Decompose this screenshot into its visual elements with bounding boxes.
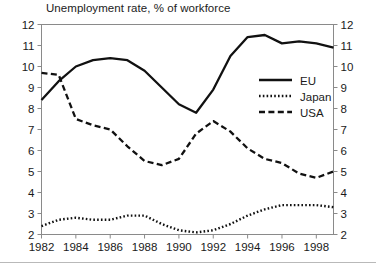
y-tick-label-left: 5 — [28, 166, 34, 178]
series-line-eu — [42, 35, 334, 113]
y-tick-label-left: 6 — [28, 145, 34, 157]
y-tick-label-right: 10 — [341, 61, 354, 73]
legend-label-eu: EU — [300, 75, 316, 87]
y-tick-label-right: 6 — [341, 145, 347, 157]
series-line-usa — [42, 73, 334, 178]
chart-container: Unemployment rate, % of workforce 234567… — [0, 0, 376, 270]
x-tick-label: 1994 — [235, 241, 261, 253]
x-tick-label: 1986 — [97, 241, 123, 253]
y-tick-label-left: 12 — [22, 19, 35, 31]
y-tick-label-right: 11 — [341, 40, 353, 52]
y-tick-label-right: 12 — [341, 19, 354, 31]
y-tick-label-right: 8 — [341, 103, 347, 115]
legend-label-japan: Japan — [300, 91, 331, 103]
y-tick-label-right: 5 — [341, 166, 347, 178]
x-tick-label: 1992 — [200, 241, 226, 253]
y-tick-label-right: 7 — [341, 124, 347, 136]
y-tick-label-left: 2 — [28, 229, 34, 241]
legend-label-usa: USA — [300, 107, 324, 119]
y-tick-label-left: 4 — [28, 187, 35, 199]
y-tick-label-right: 4 — [341, 187, 348, 199]
y-tick-label-left: 10 — [22, 61, 35, 73]
x-tick-label: 1988 — [132, 241, 158, 253]
x-tick-label: 1998 — [304, 241, 330, 253]
x-axis-ticks: 198219841986198819901992199419961998 — [29, 235, 329, 253]
footer-divider — [0, 262, 376, 263]
y-tick-label-right: 2 — [341, 229, 347, 241]
x-tick-label: 1990 — [166, 241, 192, 253]
chart-plot-area: 23456789101112 23456789101112 1982198419… — [0, 0, 376, 270]
y-tick-label-left: 11 — [23, 40, 35, 52]
x-tick-label: 1984 — [63, 241, 89, 253]
y-tick-label-left: 7 — [28, 124, 34, 136]
series-line-japan — [42, 205, 334, 232]
x-tick-label: 1996 — [269, 241, 295, 253]
y-tick-label-right: 9 — [341, 82, 347, 94]
y-axis-right-ticks: 23456789101112 — [334, 19, 354, 241]
series-lines — [42, 35, 334, 232]
chart-legend: EUJapanUSA — [259, 75, 331, 119]
axis-frame — [42, 25, 334, 235]
y-axis-left-ticks: 23456789101112 — [22, 19, 42, 241]
y-tick-label-left: 3 — [28, 208, 34, 220]
y-tick-label-left: 8 — [28, 103, 34, 115]
x-tick-label: 1982 — [29, 241, 55, 253]
y-tick-label-left: 9 — [28, 82, 34, 94]
y-tick-label-right: 3 — [341, 208, 347, 220]
